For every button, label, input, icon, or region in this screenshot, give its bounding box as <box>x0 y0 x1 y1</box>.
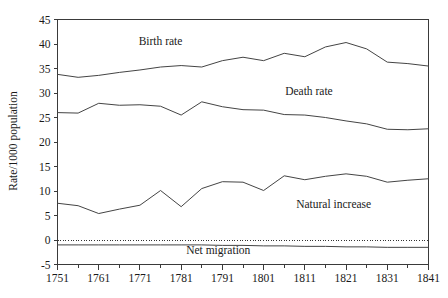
series-annotations: Birth rateDeath rateNatural increaseNet … <box>139 35 372 257</box>
y-tick-label: 5 <box>45 210 51 222</box>
series-line-birth-rate <box>58 43 429 78</box>
x-tick-label: 1821 <box>335 272 358 284</box>
y-tick-label: 35 <box>39 63 51 75</box>
natural-increase-label: Natural increase <box>296 198 371 210</box>
data-series-lines <box>58 43 429 248</box>
x-tick-label: 1831 <box>376 272 399 284</box>
y-tick-label: 15 <box>39 161 51 173</box>
x-tick-label: 1751 <box>46 272 69 284</box>
x-tick-label: 1801 <box>252 272 275 284</box>
plot-border <box>58 20 429 265</box>
series-line-natural-increase <box>58 174 429 214</box>
plot-frame <box>58 20 429 265</box>
y-tick-label: 30 <box>39 87 51 99</box>
x-tick-label: 1771 <box>128 272 151 284</box>
x-axis-ticks <box>58 265 429 270</box>
net-migration-label: Net migration <box>186 244 250 257</box>
series-line-death-rate <box>58 102 429 130</box>
birth-rate-label: Birth rate <box>139 35 183 47</box>
y-axis-title: Rate/1000 population <box>7 91 20 191</box>
y-axis-tick-labels: -5051015202530354045 <box>39 14 51 271</box>
y-tick-label: 40 <box>39 38 51 50</box>
chart-figure: 1751176117711781179118011811182118311841… <box>0 0 448 298</box>
y-tick-label: 10 <box>39 185 51 197</box>
y-tick-label: 25 <box>39 112 51 124</box>
x-axis-tick-labels: 1751176117711781179118011811182118311841 <box>46 272 440 284</box>
y-tick-label: 45 <box>39 14 51 26</box>
chart-canvas: 1751176117711781179118011811182118311841… <box>0 0 448 298</box>
y-tick-label: -5 <box>41 259 51 271</box>
x-tick-label: 1791 <box>211 272 234 284</box>
x-tick-label: 1761 <box>87 272 110 284</box>
y-tick-label: 20 <box>39 136 51 148</box>
death-rate-label: Death rate <box>285 85 333 97</box>
y-axis-ticks <box>54 20 58 265</box>
y-tick-label: 0 <box>45 234 51 246</box>
x-tick-label: 1841 <box>417 272 440 284</box>
x-tick-label: 1781 <box>170 272 193 284</box>
x-tick-label: 1811 <box>294 272 317 284</box>
